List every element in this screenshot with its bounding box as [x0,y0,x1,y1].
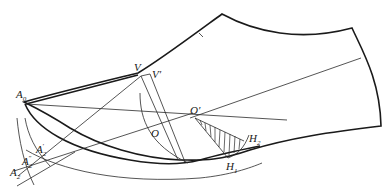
label-O: O [151,127,159,139]
vamp-line [26,75,138,104]
line-Vprime-down [150,74,185,162]
upper-outline [24,14,381,160]
label-O-prime: O′ [190,104,201,116]
label-A2: A2 [9,166,21,181]
line-A2-V [18,76,141,176]
label-A0: A0 [15,88,27,103]
line-A2-Oprime [14,113,193,171]
line-V-down [141,76,178,160]
label-H2: H2 [248,132,261,147]
line-V-Vprime [141,74,150,76]
pattern-diagram: A0 V V′ O O′ H2 H1 A2′ A2″ A2 [0,0,388,189]
label-V-prime: V′ [152,68,162,80]
line-Oprime-right [190,58,361,118]
hatching [200,120,240,155]
tick-mark [199,33,203,37]
line-Oprime-H1 [195,118,228,158]
